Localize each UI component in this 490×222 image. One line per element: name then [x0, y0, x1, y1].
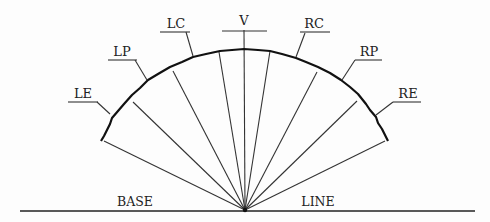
label-text-le: LE [74, 86, 92, 101]
label-text-rp: RP [360, 44, 379, 59]
label-v: V [222, 13, 267, 31]
label-text-v: V [238, 13, 249, 28]
label-text-lc: LC [167, 16, 186, 31]
spoke-vertical [244, 30, 245, 210]
fan-diagram: LELPLCVRCRPRE BASE LINE [0, 0, 490, 222]
label-lp: LP [108, 44, 147, 80]
label-text-re: RE [398, 86, 417, 101]
leader-line-rp [342, 60, 355, 80]
origin-point [243, 208, 247, 212]
label-text-rc: RC [304, 16, 324, 31]
label-rp: RP [342, 44, 382, 80]
label-lc: LC [160, 16, 193, 56]
label-le: LE [68, 86, 110, 114]
spoke-left-4 [219, 52, 245, 210]
label-re: RE [376, 86, 421, 115]
spoke-left-3 [173, 71, 245, 210]
label-rc: RC [296, 16, 330, 57]
leader-line-rc [296, 33, 305, 57]
leader-line-lp [135, 60, 147, 80]
leader-line-lc [186, 32, 193, 56]
baseline-label-base: BASE [117, 194, 153, 209]
label-text-lp: LP [113, 44, 131, 59]
leader-line-re [376, 102, 393, 115]
leader-line-le [97, 102, 110, 114]
diagram-canvas: LELPLCVRCRPRE BASE LINE [0, 0, 490, 222]
spokes [104, 30, 385, 210]
baseline-label-line: LINE [301, 194, 334, 209]
